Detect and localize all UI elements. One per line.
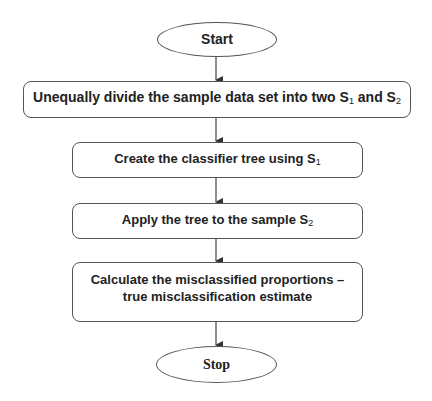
start-label: Start — [201, 31, 233, 48]
step-calculate-line1: Calculate the misclassified proportions … — [91, 271, 345, 288]
step-create-tree-label: Create the classifier tree using S1 — [114, 150, 321, 171]
start-node: Start — [157, 22, 277, 57]
step-calculate-misclassification: Calculate the misclassified proportions … — [72, 262, 363, 322]
step-apply-tree: Apply the tree to the sample S2 — [72, 203, 363, 239]
flowchart: Start Unequally divide the sample data s… — [0, 0, 432, 401]
stop-label: Stop — [203, 356, 230, 373]
step-calculate-label: Calculate the misclassified proportions … — [91, 271, 345, 305]
step-divide-label: Unequally divide the sample data set int… — [33, 89, 401, 110]
step-create-tree: Create the classifier tree using S1 — [72, 142, 363, 178]
step-apply-tree-label: Apply the tree to the sample S2 — [122, 211, 313, 232]
step-calculate-line2: true misclassification estimate — [91, 288, 345, 305]
connectors — [0, 0, 432, 401]
step-divide-sample: Unequally divide the sample data set int… — [23, 81, 411, 118]
stop-node: Stop — [156, 346, 277, 383]
